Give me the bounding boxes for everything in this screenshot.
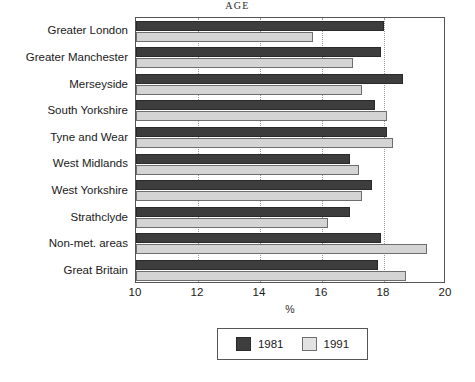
- bar-1981: [136, 74, 403, 84]
- category-label: Merseyside: [0, 78, 128, 90]
- category-label: West Midlands: [0, 157, 128, 169]
- bar-1981: [136, 154, 350, 164]
- bar-group: [136, 204, 446, 231]
- bar-1981: [136, 233, 381, 243]
- bar-1991: [136, 58, 353, 68]
- bar-1981: [136, 180, 372, 190]
- bar-1991: [136, 191, 362, 201]
- legend-label: 1981: [258, 338, 284, 350]
- category-label: South Yorkshire: [0, 104, 128, 116]
- bar-1991: [136, 32, 313, 42]
- bar-group: [136, 45, 446, 72]
- bar-group: [136, 71, 446, 98]
- bar-group: [136, 124, 446, 151]
- category-label: Non-met. areas: [0, 237, 128, 249]
- category-axis-labels: Greater LondonGreater ManchesterMerseysi…: [0, 17, 130, 283]
- x-tick-label: 12: [191, 286, 204, 298]
- chart-legend: 19811991: [217, 328, 368, 360]
- bar-1991: [136, 218, 328, 228]
- bar-1991: [136, 165, 359, 175]
- x-tick-label: 16: [315, 286, 328, 298]
- bar-1991: [136, 271, 406, 281]
- bar-1991: [136, 244, 427, 254]
- bar-group: [136, 257, 446, 284]
- x-tick-label: 18: [377, 286, 390, 298]
- category-label: Great Britain: [0, 264, 128, 276]
- legend-item-1981: 1981: [236, 337, 284, 351]
- bar-group: [136, 231, 446, 258]
- bar-1991: [136, 138, 393, 148]
- legend-swatch-icon: [302, 337, 317, 351]
- bar-1981: [136, 207, 350, 217]
- chart-title: AGE: [0, 0, 475, 11]
- category-label: Tyne and Wear: [0, 131, 128, 143]
- bar-1981: [136, 47, 381, 57]
- bar-group: [136, 98, 446, 125]
- bar-1981: [136, 260, 378, 270]
- legend-item-1991: 1991: [302, 337, 350, 351]
- bar-1981: [136, 21, 384, 31]
- bar-group: [136, 178, 446, 205]
- bar-1991: [136, 111, 387, 121]
- x-tick-label: 14: [253, 286, 266, 298]
- bar-1981: [136, 127, 387, 137]
- category-label: Greater London: [0, 24, 128, 36]
- category-label: Greater Manchester: [0, 51, 128, 63]
- x-axis-ticks: 101214161820: [135, 286, 445, 302]
- legend-label: 1991: [324, 338, 350, 350]
- x-tick-label: 10: [129, 286, 142, 298]
- x-axis-label: %: [135, 303, 445, 315]
- bar-1981: [136, 100, 375, 110]
- x-tick-label: 20: [439, 286, 452, 298]
- bar-1991: [136, 85, 362, 95]
- bar-group: [136, 18, 446, 45]
- legend-swatch-icon: [236, 337, 251, 351]
- category-label: West Yorkshire: [0, 184, 128, 196]
- plot-area: [135, 17, 445, 283]
- bar-group: [136, 151, 446, 178]
- category-label: Strathclyde: [0, 211, 128, 223]
